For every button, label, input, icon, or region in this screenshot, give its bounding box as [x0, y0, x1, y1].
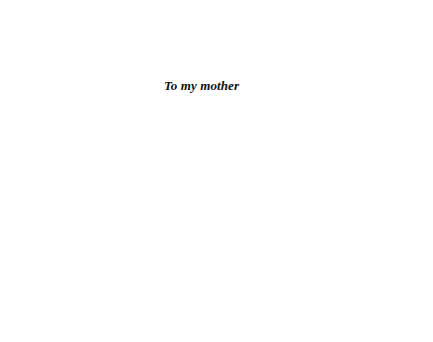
book-page: To my mother [0, 0, 433, 342]
dedication-text: To my mother [164, 77, 239, 94]
